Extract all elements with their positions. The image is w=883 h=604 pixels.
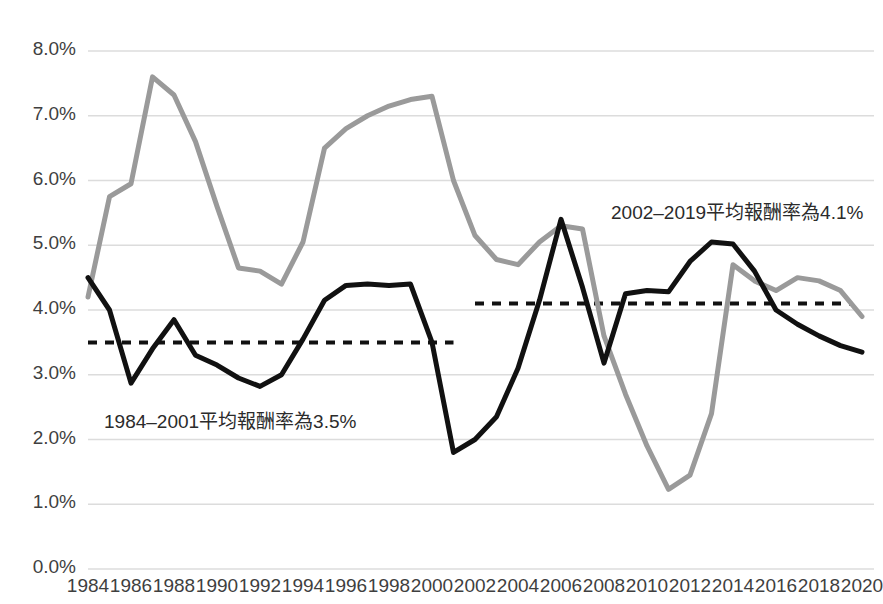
x-axis-tick-label: 1994 — [282, 575, 324, 597]
x-axis-tick-label: 1998 — [368, 575, 410, 597]
x-axis-tick-label: 1996 — [325, 575, 367, 597]
y-axis-tick-label: 7.0% — [33, 103, 76, 125]
y-axis-tick-label: 4.0% — [33, 297, 76, 319]
y-axis-tick-label: 2.0% — [33, 427, 76, 449]
y-axis-tick-label: 5.0% — [33, 232, 76, 254]
y-axis-tick-label: 3.0% — [33, 362, 76, 384]
x-axis-tick-label: 1984 — [67, 575, 109, 597]
x-axis-tick-label: 2010 — [626, 575, 668, 597]
x-axis-tick-label: 2012 — [669, 575, 711, 597]
x-axis-tick-label: 2020 — [841, 575, 883, 597]
x-axis-tick-label: 2000 — [411, 575, 453, 597]
gridlines — [88, 51, 874, 569]
x-axis-tick-label: 1992 — [239, 575, 281, 597]
y-axis-tick-label: 1.0% — [33, 491, 76, 513]
x-axis-tick-label: 2018 — [798, 575, 840, 597]
x-axis-tick-label: 2006 — [540, 575, 582, 597]
y-axis-tick-label: 8.0% — [33, 38, 76, 60]
annotation-first-period: 1984–2001平均報酬率為3.5% — [104, 406, 356, 433]
x-axis-tick-label: 1990 — [196, 575, 238, 597]
x-axis-tick-label: 1988 — [153, 575, 195, 597]
y-axis-tick-label: 6.0% — [33, 168, 76, 190]
x-axis-tick-label: 2002 — [454, 575, 496, 597]
x-axis-tick-label: 2014 — [712, 575, 754, 597]
x-axis-tick-label: 1986 — [110, 575, 152, 597]
x-axis-tick-label: 2016 — [755, 575, 797, 597]
x-axis-tick-label: 2004 — [497, 575, 539, 597]
x-axis-tick-label: 2008 — [583, 575, 625, 597]
annotation-second-period: 2002–2019平均報酬率為4.1% — [611, 197, 863, 224]
